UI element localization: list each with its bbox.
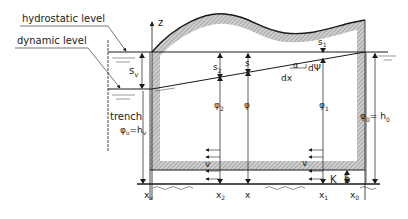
svg-text:x0: x0	[350, 190, 359, 201]
groundwater-flow-diagram: z hydrostatic level dynamic level sv tre…	[0, 0, 408, 219]
hydrostatic-level-label: hydrostatic level	[22, 13, 105, 24]
x-axis-labels: xv x2 x x1 x0	[144, 190, 359, 201]
z-axis-label: z	[158, 17, 163, 28]
dynamic-level-label: dynamic level	[17, 35, 87, 46]
svg-text:x2: x2	[216, 190, 225, 201]
velocity-label-left: v	[205, 159, 211, 169]
aquifer-cover	[150, 14, 365, 200]
callouts: hydrostatic level dynamic level	[15, 13, 126, 88]
svg-text:x1: x1	[319, 190, 328, 201]
svg-text:α: α	[293, 61, 298, 70]
svg-text:dΨ: dΨ	[308, 63, 321, 73]
svg-text:dx: dx	[281, 73, 293, 83]
svg-text:s: s	[245, 58, 250, 68]
velocity-label-right: v	[302, 158, 308, 168]
s-v-dimension: sv	[129, 53, 145, 89]
b-dimension: b K	[330, 170, 350, 185]
svg-text:x: x	[245, 190, 251, 200]
svg-text:sv: sv	[129, 65, 138, 79]
svg-text:φ: φ	[244, 100, 250, 110]
trench-label: trench	[110, 111, 142, 122]
